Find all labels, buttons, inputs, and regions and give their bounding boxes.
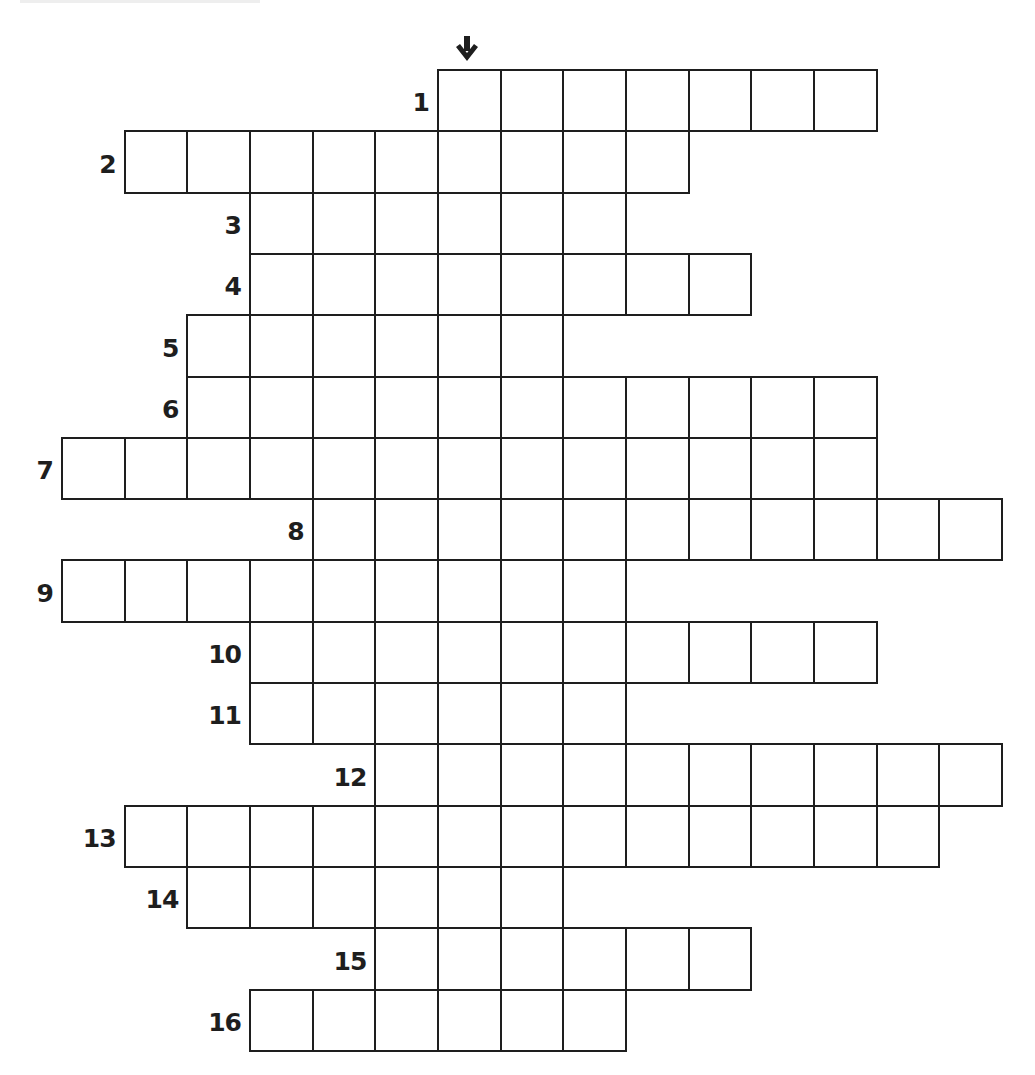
solution-cell[interactable] [437, 682, 502, 745]
letter-cell[interactable] [374, 437, 439, 500]
letter-cell[interactable] [625, 743, 690, 807]
letter-cell[interactable] [562, 498, 627, 561]
letter-cell[interactable] [562, 989, 627, 1052]
letter-cell[interactable] [562, 130, 627, 194]
letter-cell[interactable] [124, 130, 188, 194]
letter-cell[interactable] [813, 743, 878, 807]
letter-cell[interactable] [249, 376, 314, 439]
letter-cell[interactable] [688, 437, 752, 500]
letter-cell[interactable] [374, 253, 439, 316]
letter-cell[interactable] [625, 437, 690, 500]
letter-cell[interactable] [813, 69, 878, 132]
letter-cell[interactable] [500, 376, 564, 439]
letter-cell[interactable] [374, 682, 439, 745]
letter-cell[interactable] [500, 682, 564, 745]
letter-cell[interactable] [312, 314, 376, 378]
letter-cell[interactable] [186, 437, 251, 500]
letter-cell[interactable] [500, 866, 564, 929]
letter-cell[interactable] [500, 743, 564, 807]
letter-cell[interactable] [374, 927, 439, 991]
letter-cell[interactable] [625, 253, 690, 316]
letter-cell[interactable] [312, 130, 376, 194]
letter-cell[interactable] [500, 130, 564, 194]
letter-cell[interactable] [562, 559, 627, 623]
letter-cell[interactable] [374, 314, 439, 378]
letter-cell[interactable] [124, 437, 188, 500]
solution-cell[interactable] [437, 253, 502, 316]
solution-cell[interactable] [437, 559, 502, 623]
solution-cell[interactable] [437, 498, 502, 561]
letter-cell[interactable] [625, 498, 690, 561]
letter-cell[interactable] [249, 192, 314, 255]
letter-cell[interactable] [500, 498, 564, 561]
solution-cell[interactable] [437, 621, 502, 684]
letter-cell[interactable] [249, 559, 314, 623]
letter-cell[interactable] [688, 805, 752, 868]
letter-cell[interactable] [374, 621, 439, 684]
letter-cell[interactable] [312, 989, 376, 1052]
solution-cell[interactable] [437, 69, 502, 132]
letter-cell[interactable] [374, 192, 439, 255]
letter-cell[interactable] [500, 253, 564, 316]
solution-cell[interactable] [437, 743, 502, 807]
letter-cell[interactable] [249, 437, 314, 500]
letter-cell[interactable] [562, 927, 627, 991]
letter-cell[interactable] [562, 805, 627, 868]
letter-cell[interactable] [625, 805, 690, 868]
letter-cell[interactable] [688, 743, 752, 807]
letter-cell[interactable] [813, 805, 878, 868]
letter-cell[interactable] [374, 498, 439, 561]
letter-cell[interactable] [562, 682, 627, 745]
letter-cell[interactable] [625, 69, 690, 132]
letter-cell[interactable] [750, 805, 815, 868]
letter-cell[interactable] [500, 69, 564, 132]
letter-cell[interactable] [374, 559, 439, 623]
solution-cell[interactable] [437, 989, 502, 1052]
letter-cell[interactable] [625, 927, 690, 991]
letter-cell[interactable] [500, 805, 564, 868]
letter-cell[interactable] [688, 376, 752, 439]
letter-cell[interactable] [750, 621, 815, 684]
letter-cell[interactable] [312, 253, 376, 316]
letter-cell[interactable] [500, 989, 564, 1052]
letter-cell[interactable] [688, 927, 752, 991]
letter-cell[interactable] [249, 130, 314, 194]
letter-cell[interactable] [813, 437, 878, 500]
letter-cell[interactable] [625, 376, 690, 439]
letter-cell[interactable] [500, 621, 564, 684]
solution-cell[interactable] [437, 192, 502, 255]
letter-cell[interactable] [249, 866, 314, 929]
letter-cell[interactable] [750, 498, 815, 561]
letter-cell[interactable] [312, 559, 376, 623]
solution-cell[interactable] [437, 437, 502, 500]
letter-cell[interactable] [61, 437, 126, 500]
letter-cell[interactable] [249, 805, 314, 868]
letter-cell[interactable] [186, 559, 251, 623]
solution-cell[interactable] [437, 314, 502, 378]
letter-cell[interactable] [186, 376, 251, 439]
letter-cell[interactable] [750, 376, 815, 439]
letter-cell[interactable] [374, 866, 439, 929]
letter-cell[interactable] [374, 376, 439, 439]
letter-cell[interactable] [312, 192, 376, 255]
letter-cell[interactable] [625, 621, 690, 684]
letter-cell[interactable] [249, 989, 314, 1052]
letter-cell[interactable] [562, 192, 627, 255]
solution-cell[interactable] [437, 927, 502, 991]
letter-cell[interactable] [813, 621, 878, 684]
letter-cell[interactable] [249, 621, 314, 684]
letter-cell[interactable] [750, 437, 815, 500]
letter-cell[interactable] [312, 621, 376, 684]
letter-cell[interactable] [186, 866, 251, 929]
letter-cell[interactable] [688, 69, 752, 132]
letter-cell[interactable] [374, 130, 439, 194]
letter-cell[interactable] [688, 621, 752, 684]
solution-cell[interactable] [437, 130, 502, 194]
letter-cell[interactable] [61, 559, 126, 623]
letter-cell[interactable] [562, 437, 627, 500]
letter-cell[interactable] [312, 498, 376, 561]
letter-cell[interactable] [562, 621, 627, 684]
letter-cell[interactable] [813, 376, 878, 439]
letter-cell[interactable] [186, 130, 251, 194]
letter-cell[interactable] [500, 559, 564, 623]
